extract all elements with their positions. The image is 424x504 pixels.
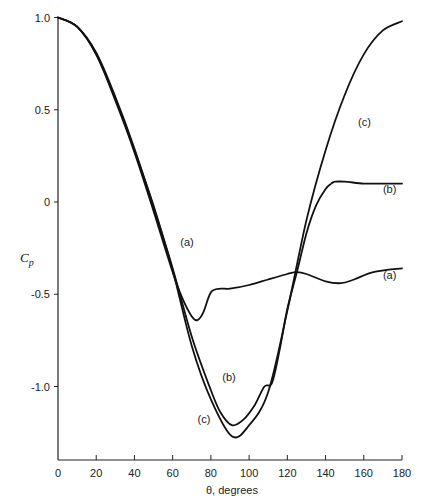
x-axis-label: θ, degrees (206, 484, 258, 496)
curve-label-b: (b) (383, 183, 396, 195)
x-tick-label: 140 (316, 467, 334, 479)
x-tick-label: 180 (393, 467, 411, 479)
y-tick-label: -0.5 (31, 288, 50, 300)
y-ticks: 1.00.50-0.5-1.0 (31, 12, 58, 393)
curve-label-b: (b) (222, 371, 235, 383)
x-tick-label: 80 (205, 467, 217, 479)
curve-a (58, 18, 402, 321)
x-tick-label: 40 (128, 467, 140, 479)
x-tick-label: 60 (167, 467, 179, 479)
y-axis-label: Cp (20, 250, 34, 268)
y-tick-label: 1.0 (35, 12, 50, 24)
y-tick-label: 0.5 (35, 104, 50, 116)
x-tick-label: 120 (278, 467, 296, 479)
x-tick-label: 20 (90, 467, 102, 479)
x-tick-label: 100 (240, 467, 258, 479)
curve-labels: (a)(b)(b)(c)(c)(a) (180, 116, 396, 425)
curve-label-c: (c) (358, 116, 371, 128)
x-tick-label: 0 (55, 467, 61, 479)
y-tick-label: 0 (44, 196, 50, 208)
x-ticks: 020406080100120140160180 (55, 455, 411, 479)
cp-vs-theta-chart: 1.00.50-0.5-1.0 020406080100120140160180… (0, 0, 424, 504)
y-tick-label: -1.0 (31, 381, 50, 393)
curve-b (58, 18, 402, 426)
x-tick-label: 160 (355, 467, 373, 479)
curve-label-a: (a) (383, 269, 396, 281)
curve-label-c: (c) (198, 413, 211, 425)
curve-label-a: (a) (180, 236, 193, 248)
